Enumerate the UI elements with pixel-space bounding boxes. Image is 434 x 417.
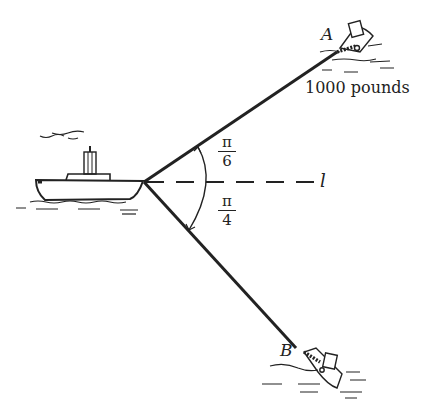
label-a: A [321,24,333,44]
boat-b-icon [262,348,366,398]
angle-arc [189,147,206,230]
rope-to-a [144,52,337,182]
diagram-drawing [0,0,434,417]
diagram-canvas: A 1000 pounds l B π 6 π 4 [0,0,434,417]
angle-pi-over-4: π 4 [218,193,236,228]
label-b: B [280,340,293,360]
main-ship-icon [16,131,143,214]
label-line-l: l [320,170,326,191]
angle-pi-over-6: π 6 [218,134,236,169]
label-force-a: 1000 pounds [305,78,410,97]
